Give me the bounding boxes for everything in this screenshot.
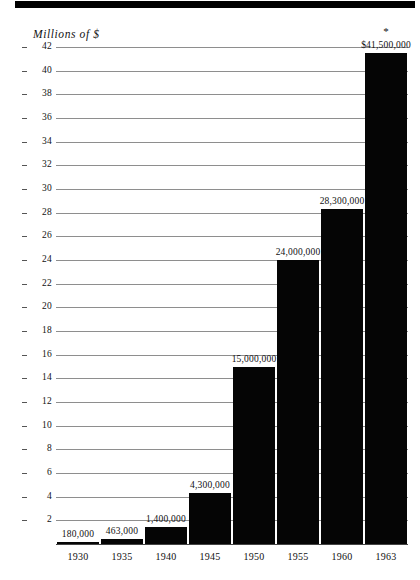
y-tick-label: 10 — [26, 420, 52, 430]
y-tick-label: 40 — [26, 65, 52, 75]
gridline — [56, 189, 408, 190]
gridline — [56, 118, 408, 119]
bar-1930 — [57, 542, 99, 544]
bar-1960 — [321, 209, 363, 544]
gridline — [56, 165, 408, 166]
x-tick-label-1935: 1935 — [100, 551, 144, 562]
y-tick-label: 34 — [26, 136, 52, 146]
bar-value-label-1963: $41,500,000 — [337, 40, 420, 50]
bar-1955 — [277, 260, 319, 544]
y-tick-label: 8 — [26, 443, 52, 453]
footnote-asterisk-1963: * — [365, 26, 407, 37]
y-tick-label: 30 — [26, 183, 52, 193]
y-tick-label: 12 — [26, 396, 52, 406]
y-tick-label: 42 — [26, 41, 52, 51]
x-tick-label-1955: 1955 — [276, 551, 320, 562]
plot-area: Millions of $ 24681012141618202224262830… — [0, 0, 420, 580]
y-tick-label: 28 — [26, 207, 52, 217]
x-tick-label-1940: 1940 — [144, 551, 188, 562]
x-tick-label-1950: 1950 — [232, 551, 276, 562]
chart-container: Millions of $ 24681012141618202224262830… — [0, 0, 420, 580]
y-tick-label: 26 — [26, 230, 52, 240]
y-tick-label: 6 — [26, 467, 52, 477]
y-tick-label: 2 — [26, 514, 52, 524]
y-tick-label: 32 — [26, 159, 52, 169]
y-axis-label: Millions of $ — [33, 28, 100, 40]
y-tick-label: 18 — [26, 325, 52, 335]
y-tick-label: 14 — [26, 372, 52, 382]
y-tick-label: 4 — [26, 491, 52, 501]
bar-1945 — [189, 493, 231, 544]
bar-1935 — [101, 539, 143, 544]
x-tick-label-1963: 1963 — [364, 551, 408, 562]
y-tick-label: 20 — [26, 301, 52, 311]
x-tick-label-1945: 1945 — [188, 551, 232, 562]
gridline — [56, 142, 408, 143]
y-tick-label: 36 — [26, 112, 52, 122]
gridline — [56, 94, 408, 95]
x-axis-baseline — [56, 544, 408, 545]
x-tick-label-1960: 1960 — [320, 551, 364, 562]
bar-1940 — [145, 527, 187, 544]
bar-1950 — [233, 367, 275, 544]
y-tick-label: 24 — [26, 254, 52, 264]
bar-1963 — [365, 53, 407, 544]
y-tick-label: 16 — [26, 349, 52, 359]
gridline — [56, 71, 408, 72]
x-tick-label-1930: 1930 — [56, 551, 100, 562]
y-tick-label: 22 — [26, 278, 52, 288]
y-tick-label: 38 — [26, 88, 52, 98]
